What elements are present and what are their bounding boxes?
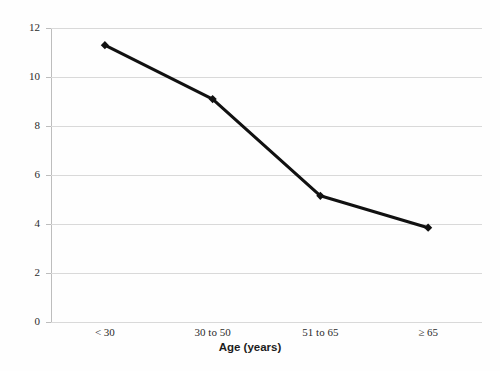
chart-figure: % of patients with positive skin test 02… — [0, 0, 500, 371]
gridline — [51, 322, 482, 323]
gridline — [51, 28, 482, 29]
y-tick-label: 0 — [6, 315, 40, 327]
x-tick-label: < 30 — [60, 326, 150, 338]
y-tick-label: 6 — [6, 168, 40, 180]
x-axis-title: Age (years) — [0, 341, 500, 353]
gridline — [51, 175, 482, 176]
x-tick-label: ≥ 65 — [383, 326, 473, 338]
scan-artifact-bottom — [0, 360, 500, 371]
y-tick-label: 12 — [6, 21, 40, 33]
y-tick-label: 2 — [6, 266, 40, 278]
x-tick-label: 51 to 65 — [275, 326, 365, 338]
y-tick-label: 10 — [6, 70, 40, 82]
gridline — [51, 126, 482, 127]
y-tick-label: 8 — [6, 119, 40, 131]
y-tick-label: 4 — [6, 217, 40, 229]
gridline — [51, 224, 482, 225]
gridline — [51, 273, 482, 274]
plot-area — [51, 28, 482, 322]
gridline — [51, 77, 482, 78]
x-tick-label: 30 to 50 — [168, 326, 258, 338]
scan-artifact-top — [0, 0, 500, 9]
